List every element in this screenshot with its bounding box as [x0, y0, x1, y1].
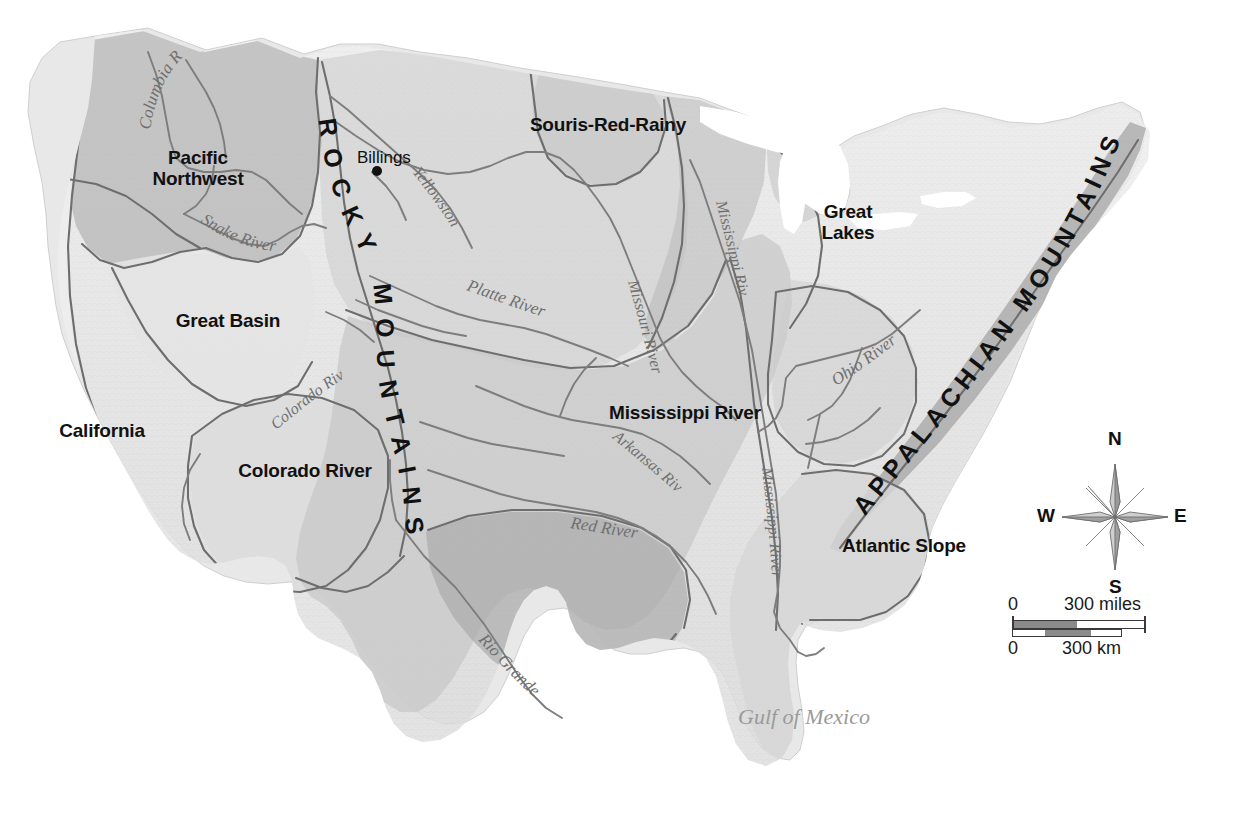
region-label-mississippi-river: Mississippi River [597, 402, 773, 423]
scale-bar-miles [1012, 620, 1146, 629]
region-label-pacific-northwest: Pacific Northwest [118, 147, 278, 190]
region-label-colorado-river: Colorado River [215, 460, 395, 481]
city-dot-billings [372, 166, 382, 176]
scale-label-miles-max: 300 miles [1064, 594, 1141, 615]
river-mississippi-outlet [798, 648, 824, 656]
scale-bar: 0 300 miles 0 300 km [1008, 594, 1178, 664]
water-label-gulf-of-mexico: Gulf of Mexico [738, 704, 870, 730]
region-label-atlantic-slope: Atlantic Slope [822, 535, 986, 556]
scale-label-km-max: 300 km [1062, 638, 1121, 659]
region-label-great-lakes: Great Lakes [800, 201, 896, 244]
region-label-souris-red-rainy: Souris-Red-Rainy [518, 114, 698, 135]
city-label-billings: Billings [357, 148, 411, 168]
compass-center-dot [1113, 515, 1117, 519]
compass-label-north: N [1108, 428, 1122, 450]
compass-rose-graphic [1048, 450, 1184, 586]
compass-label-east: E [1174, 505, 1187, 527]
compass-label-west: W [1037, 505, 1055, 527]
scale-tick-miles-right [1144, 616, 1146, 633]
compass-rose: N E S W [1048, 450, 1184, 586]
scale-label-miles-zero: 0 [1008, 594, 1018, 615]
region-label-great-basin: Great Basin [148, 310, 308, 331]
map-canvas: ROCKY MOUNTAINS APPALACHIAN MOUNTAINS Co… [0, 0, 1239, 817]
scale-label-km-zero: 0 [1008, 638, 1018, 659]
region-label-california: California [32, 420, 172, 441]
scale-bar-km [1012, 629, 1122, 637]
scale-bar-km-fill [1045, 630, 1091, 636]
scale-bar-miles-fill [1013, 621, 1077, 628]
